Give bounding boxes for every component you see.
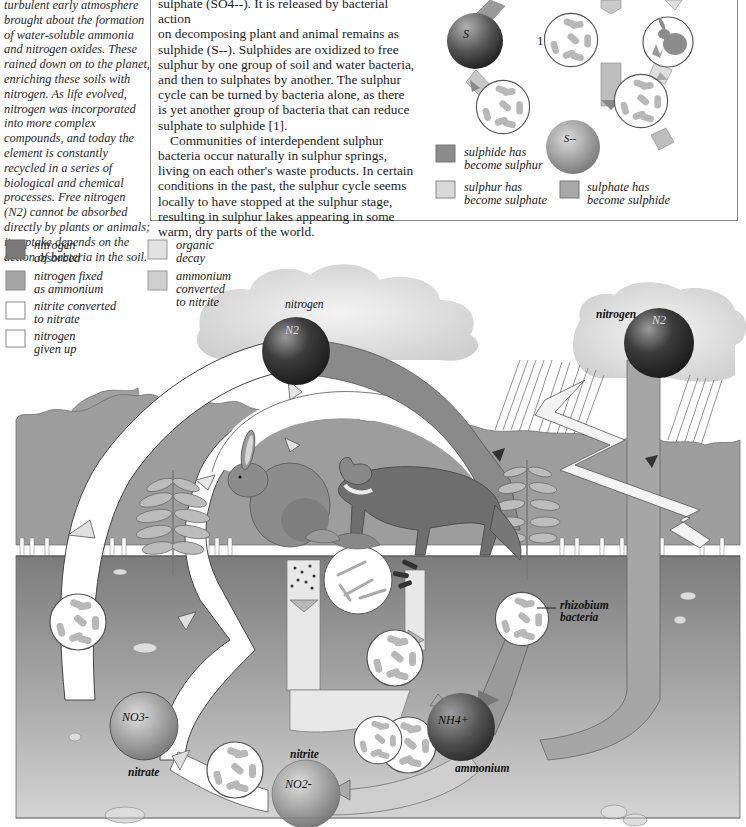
callout-number: 1 xyxy=(537,33,544,49)
legend-swatch-sulphate-sulphide xyxy=(560,181,579,198)
legend-label-ammonium-nitrite: ammonium converted to nitrite xyxy=(176,270,231,309)
nitrite-sphere xyxy=(272,760,340,827)
label-nitrogen-right: nitrogen xyxy=(596,308,636,320)
legend-label-nitrogen-fixed: nitrogen fixed as ammonium xyxy=(34,270,103,296)
sulphide-symbol: S-- xyxy=(564,133,576,144)
legend-swatch-nitrite-nitrate xyxy=(6,302,25,319)
bacteria-icon xyxy=(544,13,597,66)
sulphur-symbol: S xyxy=(463,27,469,42)
legend-swatch-nitrogen-absorbed xyxy=(6,240,25,259)
symbol-ammonium: NH4+ xyxy=(438,713,469,728)
legend-label-sulphide-sulphur: sulphide has become sulphur xyxy=(464,146,543,172)
legend-swatch-organic-decay xyxy=(148,240,167,259)
label-ammonium: ammonium xyxy=(455,762,509,774)
legend-label-nitrite-nitrate: nitrite converted to nitrate xyxy=(34,300,116,326)
bacteria-icon xyxy=(50,594,106,650)
bacteria-icon xyxy=(495,592,548,645)
sulphide-sphere xyxy=(546,120,600,174)
label-nitrite: nitrite xyxy=(290,748,319,760)
bacteria-icon xyxy=(354,716,402,764)
legend-label-nitrogen-absorbed: nitrogen absorbed xyxy=(34,239,80,265)
legend-label-organic-decay: organic decay xyxy=(176,239,214,265)
symbol-n2-right: N2 xyxy=(652,313,666,328)
legend-swatch-nitrogen-given-up xyxy=(6,330,25,347)
legend-label-nitrogen-given-up: nitrogen given up xyxy=(34,330,76,356)
rabbit-plant-icon xyxy=(643,17,693,67)
bacteria-icon xyxy=(476,80,529,133)
legend-swatch-sulphur-sulphate xyxy=(436,181,455,198)
bacteria-icon xyxy=(207,742,263,798)
label-nitrate: nitrate xyxy=(128,766,159,778)
label-rhizobium-bacteria: rhizobium bacteria xyxy=(560,599,609,623)
legend-label-sulphate-sulphide: sulphate has become sulphide xyxy=(587,181,670,207)
label-nitrogen-left: nitrogen xyxy=(285,298,324,310)
legend-swatch-nitrogen-fixed xyxy=(6,271,25,290)
bacteria-icon xyxy=(614,74,667,127)
symbol-nitrite: NO2- xyxy=(285,777,312,792)
symbol-n2-left: N2 xyxy=(285,323,299,338)
nitrate-sphere xyxy=(110,692,178,760)
legend-swatch-sulphide-sulphur xyxy=(436,145,455,162)
nitrogen-cycle-illustration xyxy=(0,0,746,827)
bacteria-icon xyxy=(367,630,423,686)
legend-swatch-ammonium-nitrite xyxy=(148,271,167,290)
symbol-nitrate: NO3- xyxy=(122,710,149,725)
sulphur-sphere xyxy=(447,13,503,69)
legend-label-sulphur-sulphate: sulphur has become sulphate xyxy=(464,181,547,207)
